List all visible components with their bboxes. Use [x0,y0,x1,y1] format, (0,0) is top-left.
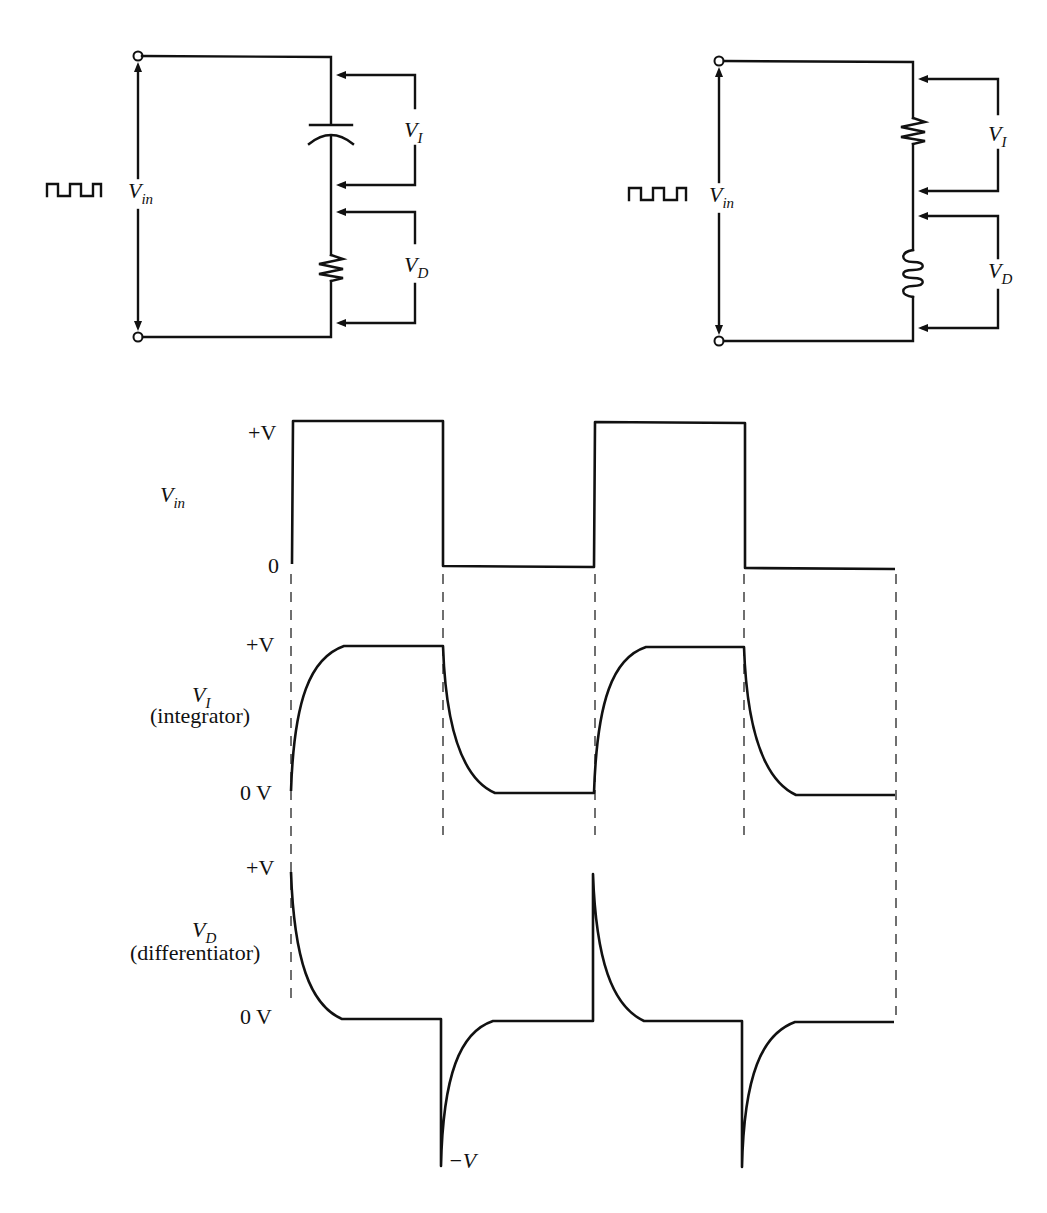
circuit-and-waveform-diagram: Vin VI VD Vi [0,0,1047,1213]
vi-label: VI [404,117,423,146]
arrow-up-icon [134,62,142,72]
tick-zero-v: 0 V [240,780,272,805]
vd-label: VD [404,252,428,281]
arrow-left-icon [336,208,346,216]
arrow-left-icon [336,71,346,79]
inductor-icon [903,250,923,297]
tick-plus-v: +V [248,420,276,445]
resistor-icon [319,255,343,281]
tick-minus-v: −V [448,1148,479,1173]
vin-label: Vin [709,182,734,211]
arrow-down-icon [715,325,723,335]
rl-circuit: Vin VI VD [629,57,1012,346]
rc-circuit: Vin VI VD [47,52,428,342]
vi-caption: (integrator) [150,703,250,728]
vin-waveform: +V 0 Vin [160,420,895,578]
terminal-top [715,57,724,66]
vi-label: VI [988,121,1007,150]
arrow-left-icon [336,181,346,189]
arrow-left-icon [918,212,928,220]
arrow-left-icon [336,319,346,327]
arrow-left-icon [918,75,928,83]
arrow-left-icon [918,324,928,332]
vd-waveform: +V 0 V VD (differentiator) −V [130,855,894,1173]
square-wave-icon [47,184,101,196]
square-wave-icon [629,188,686,200]
tick-plus-v: +V [246,632,274,657]
vin-name: Vin [160,482,185,511]
vd-label: VD [988,258,1012,287]
arrow-up-icon [715,67,723,77]
resistor-icon [901,118,925,144]
tick-zero-v: 0 V [240,1004,272,1029]
vi-waveform: +V 0 V VI (integrator) [150,632,895,805]
terminal-bottom [134,333,143,342]
tick-zero: 0 [268,553,279,578]
arrow-down-icon [134,321,142,331]
terminal-bottom [715,337,724,346]
vd-caption: (differentiator) [130,940,260,965]
vin-label: Vin [128,178,153,207]
arrow-left-icon [918,187,928,195]
tick-plus-v: +V [246,855,274,880]
